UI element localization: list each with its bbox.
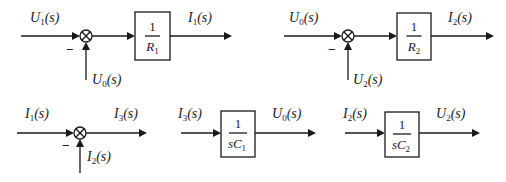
block-top-left: U1(s) − U0(s) 1 R1 I1(s) <box>21 10 232 89</box>
output-label-i1: I1(s) <box>187 10 212 27</box>
arrowhead-icon <box>213 129 221 137</box>
block-bottom-right: I2(s) 1 sC2 U2(s) <box>342 106 480 157</box>
output-label-i3: I3(s) <box>113 106 138 123</box>
output-label-u0: U0(s) <box>272 106 302 123</box>
feedback-label-u2: U2(s) <box>353 72 383 89</box>
arrowhead-icon <box>224 32 232 40</box>
minus-sign: − <box>66 42 74 57</box>
arrowhead-icon <box>139 129 147 137</box>
gain-numerator: 1 <box>235 116 242 131</box>
gain-numerator: 1 <box>411 19 418 34</box>
gain-numerator: 1 <box>399 117 406 132</box>
arrowhead-icon <box>377 129 385 137</box>
arrowhead-icon <box>66 129 74 137</box>
summing-junction-icon <box>342 30 354 42</box>
arrowhead-icon <box>344 42 352 50</box>
block-top-right: U0(s) − U2(s) 1 R2 I2(s) <box>284 10 494 89</box>
input-label-u0: U0(s) <box>289 10 319 27</box>
arrowhead-icon <box>76 139 84 147</box>
gain-numerator: 1 <box>149 19 156 34</box>
minus-sign: − <box>62 138 70 153</box>
output-label-i2: I2(s) <box>447 10 472 27</box>
summing-junction-icon <box>80 30 92 42</box>
arrowhead-icon <box>72 32 80 40</box>
input-label-i1: I1(s) <box>24 106 49 123</box>
arrowhead-icon <box>82 42 90 50</box>
block-bottom-middle: I3(s) 1 sC1 U0(s) <box>177 106 316 157</box>
input-label-u1: U1(s) <box>30 10 60 27</box>
arrowhead-icon <box>127 32 135 40</box>
arrowhead-icon <box>308 129 316 137</box>
block-bottom-left: I1(s) − I2(s) I3(s) <box>17 106 147 173</box>
arrowhead-icon <box>472 129 480 137</box>
arrowhead-icon <box>334 32 342 40</box>
feedback-label-u0: U0(s) <box>92 72 122 89</box>
arrowhead-icon <box>389 32 397 40</box>
input-label-i3: I3(s) <box>177 106 202 123</box>
minus-sign: − <box>328 42 336 57</box>
summing-junction-icon <box>74 127 86 139</box>
arrowhead-icon <box>486 32 494 40</box>
block-diagram-canvas: U1(s) − U0(s) 1 R1 I1(s) U0(s) − <box>0 0 506 182</box>
feedback-label-i2: I2(s) <box>86 149 111 166</box>
output-label-u2: U2(s) <box>436 106 466 123</box>
input-label-i2: I2(s) <box>342 106 367 123</box>
